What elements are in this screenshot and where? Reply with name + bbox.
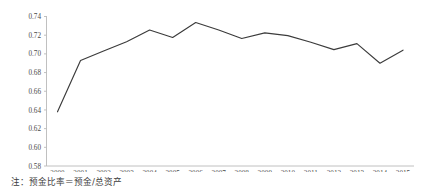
- y-tick-label: 0.70: [28, 50, 41, 58]
- data-series-line: [58, 23, 404, 112]
- y-axis-tick-labels: 0.580.600.620.640.660.680.700.720.74: [28, 13, 41, 171]
- x-tick-label: 2003: [119, 170, 134, 173]
- y-tick-label: 0.58: [28, 163, 41, 171]
- x-tick-label: 2013: [350, 170, 365, 173]
- x-tick-label: 2005: [165, 170, 180, 173]
- x-tick-label: 2011: [304, 170, 319, 173]
- x-tick-label: 2001: [73, 170, 88, 173]
- x-tick-label: 2004: [142, 170, 157, 173]
- chart-plot-area: 0.580.600.620.640.660.680.700.720.74 200…: [0, 0, 425, 172]
- x-tick-label: 2007: [212, 170, 227, 173]
- chart-note: 注：预金比率＝预金/总资产: [11, 176, 122, 188]
- x-tick-label: 2000: [50, 170, 65, 173]
- x-tick-label: 2008: [235, 170, 250, 173]
- x-tick-label: 2010: [281, 170, 296, 173]
- x-tick-label: 2006: [189, 170, 204, 173]
- x-tick-label: 2009: [258, 170, 273, 173]
- y-tick-label: 0.66: [28, 88, 41, 96]
- y-tick-label: 0.74: [28, 13, 41, 21]
- chart-figure: 0.580.600.620.640.660.680.700.720.74 200…: [0, 0, 425, 193]
- y-tick-label: 0.68: [28, 69, 41, 77]
- x-tick-label: 2012: [327, 170, 342, 173]
- x-tick-label: 2014: [373, 170, 388, 173]
- y-tick-label: 0.62: [28, 125, 41, 133]
- x-axis-tick-labels: 2000200120022003200420052006200720082009…: [50, 170, 410, 173]
- x-tick-label: 2002: [96, 170, 111, 173]
- x-tick-label: 2015: [396, 170, 411, 173]
- y-tick-label: 0.72: [28, 32, 41, 40]
- y-tick-label: 0.60: [28, 144, 41, 152]
- line-chart-svg: 0.580.600.620.640.660.680.700.720.74 200…: [0, 0, 425, 172]
- y-tick-label: 0.64: [28, 107, 41, 115]
